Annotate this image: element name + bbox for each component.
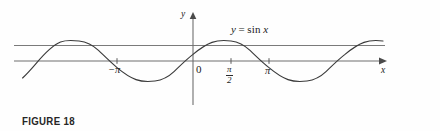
curve-equation-label: y = sin x <box>231 24 268 35</box>
fraction-denominator: 2 <box>226 76 233 86</box>
origin-label: 0 <box>196 64 202 75</box>
tick-label-pi-over-two: π2 <box>226 65 233 86</box>
tick-label-neg-pi: −π <box>108 65 120 76</box>
x-axis-label: x <box>381 66 385 76</box>
y-axis-label: y <box>181 10 185 20</box>
tick-label-pi: π <box>265 66 270 77</box>
plot-area: y x y = sin x 0 −π π2 π <box>0 0 440 110</box>
equation-function: sin <box>247 23 260 35</box>
fraction-numerator: π <box>226 65 233 76</box>
figure-caption: FIGURE 18 <box>22 115 75 127</box>
graph-svg <box>0 0 440 110</box>
y-axis-arrowhead <box>190 12 197 19</box>
figure-container: y x y = sin x 0 −π π2 π FIGURE 18 <box>0 0 440 131</box>
equation-variable: x <box>263 23 268 35</box>
x-axis-arrowhead <box>379 58 387 65</box>
